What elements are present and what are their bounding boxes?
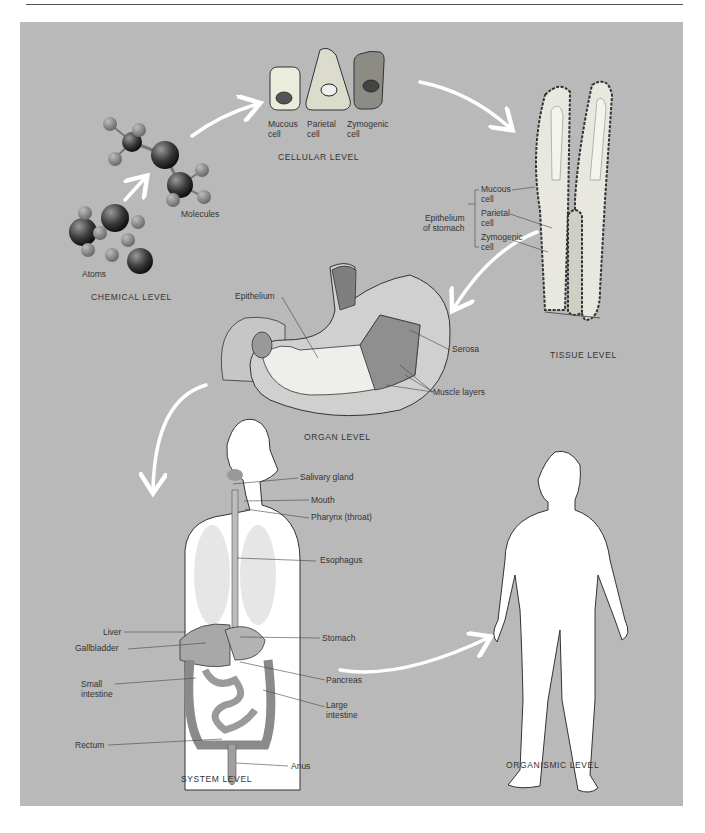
muscle-layers-label: Muscle layers <box>433 388 485 398</box>
epithelium-label: Epithelium <box>235 292 275 302</box>
serosa-label: Serosa <box>452 345 479 355</box>
zymogenic-cell-label: Zymogenic cell <box>347 120 389 139</box>
gallbladder-label: Gallbladder <box>75 644 118 654</box>
molecules-label: Molecules <box>181 210 219 220</box>
pharynx-label: Pharynx (throat) <box>311 513 372 523</box>
salivary-gland-label: Salivary gland <box>300 473 353 483</box>
gastric-gland-tissue-icon <box>536 82 612 320</box>
system-level-title: SYSTEM LEVEL <box>181 774 252 784</box>
stomach-label: Stomach <box>322 634 356 644</box>
esophagus-label: Esophagus <box>320 556 363 566</box>
cellular-level-title: CELLULAR LEVEL <box>278 152 359 162</box>
large-intestine-label: Large intestine <box>326 701 358 720</box>
atoms-icon <box>69 204 153 274</box>
mouth-label: Mouth <box>311 496 335 506</box>
anus-label: Anus <box>291 762 310 772</box>
zymogenic-cell-icon <box>354 51 384 109</box>
chemical-level-title: CHEMICAL LEVEL <box>91 292 172 302</box>
parietal-cell-icon <box>306 48 351 110</box>
mucous-cell-icon <box>270 67 300 110</box>
human-figure-icon <box>494 451 628 792</box>
small-intestine-label: Small intestine <box>81 680 113 699</box>
pancreas-label: Pancreas <box>326 676 362 686</box>
tissue-zymogenic-cell-label: Zymogenic cell <box>481 233 523 252</box>
stomach-organ-icon <box>221 264 450 416</box>
rectum-label: Rectum <box>75 741 104 751</box>
organ-level-title: ORGAN LEVEL <box>304 432 371 442</box>
tissue-mucous-cell-label: Mucous cell <box>481 185 511 204</box>
digestive-system-figure <box>180 419 300 790</box>
tissue-parietal-cell-label: Parietal cell <box>481 209 510 228</box>
tissue-level-title: TISSUE LEVEL <box>550 350 617 360</box>
atoms-label: Atoms <box>82 270 106 280</box>
epithelium-of-stomach-label: Epithelium of stomach <box>423 214 465 233</box>
mucous-cell-label: Mucous cell <box>268 120 298 139</box>
organismic-level-title: ORGANISMIC LEVEL <box>506 760 599 770</box>
liver-label: Liver <box>103 628 121 638</box>
molecules-icon <box>103 117 211 207</box>
parietal-cell-label: Parietal cell <box>307 120 336 139</box>
